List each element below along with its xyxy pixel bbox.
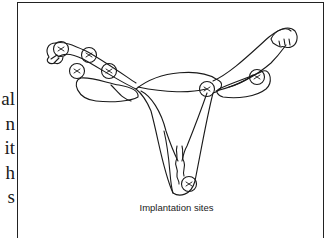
implantation-site-markers <box>54 42 265 192</box>
uterus-outline <box>136 72 222 195</box>
text-fragment: al <box>0 87 15 112</box>
right-fallopian-tube <box>213 29 291 81</box>
body-text-fragments: al n it h s <box>0 87 15 210</box>
left-ovary <box>76 78 138 102</box>
figure-caption: Implantation sites <box>18 202 325 213</box>
text-fragment: h <box>0 161 15 186</box>
figure-frame: Implantation sites <box>17 2 324 238</box>
text-fragment: it <box>0 136 15 161</box>
text-fragment: n <box>0 112 15 137</box>
text-fragment: s <box>0 185 15 210</box>
